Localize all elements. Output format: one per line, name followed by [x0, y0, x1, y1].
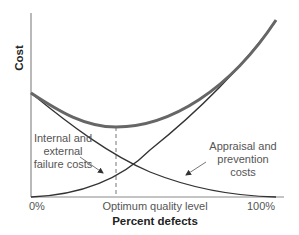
appraisal-label-line3: costs	[230, 166, 256, 178]
appraisal-arrow-icon	[186, 162, 206, 175]
appraisal-label-line1: Appraisal and	[209, 140, 276, 152]
failure-costs-label-line1: Internal and	[34, 132, 92, 144]
x-tick-100: 100%	[247, 200, 275, 212]
total-cost-curve	[31, 20, 276, 127]
failure-costs-label-line2: external	[43, 145, 82, 157]
x-axis-title: Percent defects	[112, 215, 198, 227]
x-tick-optimum: Optimum quality level	[102, 200, 207, 212]
cost-of-quality-chart: Cost 0% Optimum quality level 100% Perce…	[0, 0, 299, 235]
y-axis-title: Cost	[13, 45, 25, 71]
x-tick-0: 0%	[29, 200, 45, 212]
appraisal-label-line2: prevention	[217, 153, 268, 165]
